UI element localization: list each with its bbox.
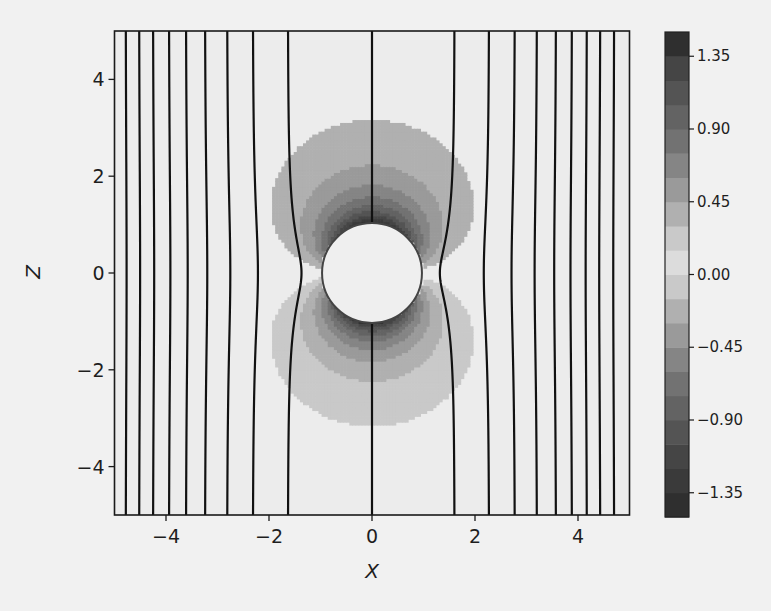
- contour-figure: −4−2024 −4−2024 X Z 1.350.900.450.00−0.4…: [0, 0, 771, 611]
- colorbar-tick-label: 0.45: [697, 193, 730, 211]
- contour-cell: [470, 326, 474, 330]
- colorbar-tick-label: 1.35: [697, 47, 730, 65]
- colorbar-band: [665, 396, 689, 421]
- colorbar-band: [665, 81, 689, 106]
- contour-cell: [470, 190, 474, 194]
- colorbar-band: [665, 420, 689, 445]
- colorbar: 1.350.900.450.00−0.45−0.90−1.35: [665, 32, 743, 518]
- colorbar-band: [665, 226, 689, 251]
- equipotential-line: [126, 31, 127, 515]
- x-axis: −4−2024: [152, 515, 584, 547]
- x-tick-label: 2: [469, 525, 481, 547]
- colorbar-band: [665, 493, 689, 518]
- contour-cell: [454, 158, 458, 162]
- colorbar-band: [665, 299, 689, 324]
- y-tick-label: −2: [76, 359, 104, 381]
- colorbar-tick-label: −1.35: [697, 484, 743, 502]
- colorbar-band: [665, 372, 689, 397]
- equipotential-line: [613, 31, 614, 515]
- colorbar-tick-label: 0.00: [697, 266, 730, 284]
- contour-cell: [464, 172, 468, 176]
- equipotential-line: [139, 31, 140, 515]
- colorbar-band: [665, 202, 689, 227]
- plot-area: [115, 31, 630, 515]
- colorbar-band: [665, 469, 689, 494]
- colorbar-band: [665, 56, 689, 81]
- contour-cell: [457, 300, 461, 304]
- colorbar-band: [665, 153, 689, 178]
- x-tick-label: 4: [572, 525, 584, 547]
- y-tick-label: −4: [76, 456, 104, 478]
- contour-cell: [461, 167, 465, 171]
- colorbar-band: [665, 323, 689, 348]
- contour-cell: [467, 315, 471, 319]
- x-tick-label: 0: [366, 525, 378, 547]
- equipotential-line: [169, 31, 170, 515]
- colorbar-band: [665, 444, 689, 469]
- colorbar-band: [665, 275, 689, 300]
- contour-cell: [467, 181, 471, 185]
- x-axis-label: X: [364, 559, 380, 583]
- colorbar-band: [665, 32, 689, 57]
- colorbar-tick-label: −0.45: [697, 338, 743, 356]
- colorbar-band: [665, 347, 689, 372]
- equipotential-line: [586, 31, 587, 515]
- x-tick-label: −2: [255, 525, 283, 547]
- colorbar-band: [665, 105, 689, 130]
- equipotential-line: [599, 31, 600, 515]
- colorbar-tick-label: 0.90: [697, 120, 730, 138]
- y-tick-label: 2: [92, 165, 104, 187]
- colorbar-tick-label: −0.90: [697, 411, 743, 429]
- colorbar-band: [665, 129, 689, 154]
- colorbar-band: [665, 250, 689, 275]
- contour-cell: [464, 309, 468, 313]
- x-tick-label: −4: [152, 525, 180, 547]
- equipotential-line: [153, 31, 154, 515]
- cylinder-obstacle: [322, 223, 422, 323]
- y-tick-label: 0: [92, 262, 104, 284]
- y-axis: −4−2024: [76, 68, 114, 477]
- colorbar-band: [665, 178, 689, 203]
- y-axis-label: Z: [21, 264, 45, 280]
- y-tick-label: 4: [92, 68, 104, 90]
